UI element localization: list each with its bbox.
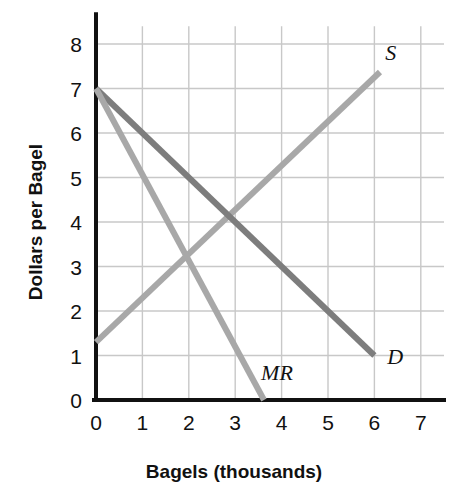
y-axis-title: Dollars per Bagel: [25, 144, 46, 300]
y-tick-label: 3: [70, 256, 82, 279]
x-tick-label: 2: [183, 411, 195, 434]
x-tick-label: 5: [322, 411, 334, 434]
x-tick-label: 6: [369, 411, 381, 434]
y-tick-label: 7: [70, 78, 82, 101]
x-tick-label: 7: [415, 411, 427, 434]
x-axis-title: Bagels (thousands): [146, 461, 322, 482]
y-tick-label: 8: [70, 33, 82, 56]
x-tick-label: 4: [276, 411, 288, 434]
bagel-supply-demand-chart: 01234567 012345678 SDMR Bagels (thousand…: [0, 0, 469, 493]
x-tick-label: 0: [90, 411, 102, 434]
y-tick-label: 4: [70, 211, 82, 234]
y-tick-label: 5: [70, 167, 82, 190]
y-tick-label: 2: [70, 300, 82, 323]
curve-label-d: D: [386, 344, 403, 369]
chart-figure: 01234567 012345678 SDMR Bagels (thousand…: [0, 0, 469, 493]
x-tick-label: 1: [137, 411, 149, 434]
y-tick-label: 1: [70, 345, 82, 368]
y-tick-label: 6: [70, 122, 82, 145]
curve-label-mr: MR: [260, 360, 293, 385]
y-tick-label: 0: [70, 389, 82, 412]
y-axis-tick-labels: 012345678: [70, 33, 82, 412]
curve-label-s: S: [385, 40, 396, 65]
x-tick-label: 3: [229, 411, 241, 434]
